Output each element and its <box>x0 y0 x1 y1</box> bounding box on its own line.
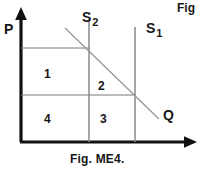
s2-subscript: 2 <box>92 16 98 28</box>
y-axis-label: P <box>4 22 13 36</box>
s2-base: S <box>82 9 91 25</box>
region-label-4: 4 <box>44 113 51 125</box>
s1-base: S <box>146 20 155 36</box>
x-axis-label: Q <box>163 108 174 122</box>
s1-subscript: 1 <box>156 27 162 39</box>
y-axis <box>15 7 27 142</box>
region-label-2: 2 <box>98 80 105 92</box>
figure-caption: Fig. ME4. <box>70 153 124 165</box>
supply-curve-s1-label: S1 <box>146 21 162 39</box>
supply-curve-s2-label: S2 <box>82 10 98 28</box>
corner-note: Fig <box>177 2 195 14</box>
x-axis <box>20 136 197 148</box>
economics-figure: P Q S2 S1 1 2 3 4 Fig Fig. ME4. <box>0 0 206 169</box>
demand-curve <box>65 28 159 119</box>
region-label-1: 1 <box>44 68 51 80</box>
region-label-3: 3 <box>100 113 107 125</box>
